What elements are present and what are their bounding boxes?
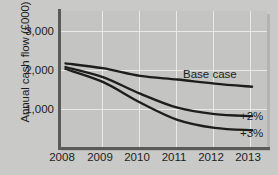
x-tick-label-2008: 2008	[45, 151, 79, 163]
chart-screenshot: Annual cash flow (£000) 3,000 2,000 1,00…	[0, 0, 278, 175]
series-label-plus-2-percent: +2%	[240, 110, 263, 122]
x-tick-label-2011: 2011	[157, 151, 191, 163]
y-tick-label-3000: 3,000	[8, 25, 54, 37]
y-tick-label-2000: 2,000	[8, 64, 54, 76]
series-label-base-case: Base case	[183, 68, 237, 80]
x-axis-tick-labels: 2008 2009 2010 2011 2012 2013	[0, 151, 278, 171]
x-tick-label-2010: 2010	[120, 151, 154, 163]
x-tick-label-2009: 2009	[83, 151, 117, 163]
series-label-plus-3-percent: +3%	[240, 127, 263, 139]
x-tick-label-2012: 2012	[194, 151, 228, 163]
y-tick-label-1000: 1,000	[8, 103, 54, 115]
y-axis-line	[58, 9, 61, 150]
x-tick-label-2013: 2013	[231, 151, 265, 163]
x-axis-line	[58, 147, 270, 150]
y-axis-tick-labels: 3,000 2,000 1,000	[8, 0, 54, 175]
